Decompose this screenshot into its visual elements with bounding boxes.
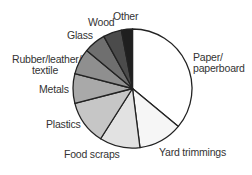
label-glass: Glass xyxy=(67,30,93,41)
label-other: Other xyxy=(113,11,138,22)
label-yard-trimmings: Yard trimmings xyxy=(159,147,226,158)
label-plastics: Plastics xyxy=(46,119,81,130)
label-food-scraps: Food scraps xyxy=(64,149,120,160)
label-rubber-line2: textile xyxy=(32,65,58,76)
label-wood: Wood xyxy=(88,17,114,28)
label-metals: Metals xyxy=(39,84,69,95)
label-paper-line2: paperboard xyxy=(193,63,245,74)
